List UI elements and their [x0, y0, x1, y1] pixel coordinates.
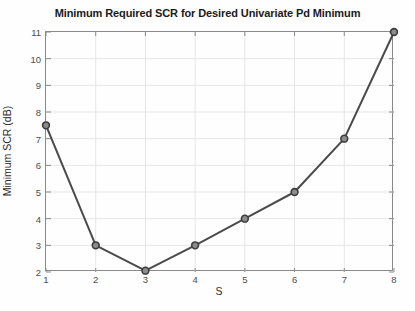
- y-tick-label: 9: [36, 80, 41, 91]
- y-tick-label: 8: [36, 107, 41, 118]
- y-axis-label: Minimum SCR (dB): [1, 106, 13, 196]
- data-point-marker: [43, 122, 50, 129]
- data-point-marker: [391, 29, 398, 36]
- y-tick-label: 5: [36, 187, 41, 198]
- x-axis-label: S: [215, 285, 222, 297]
- x-tick-label: 6: [292, 274, 297, 285]
- x-tick-label: 8: [391, 274, 396, 285]
- x-tick-label: 5: [242, 274, 247, 285]
- y-tick-label: 11: [31, 27, 41, 38]
- data-point-marker: [192, 242, 199, 249]
- x-tick-label: 7: [342, 274, 347, 285]
- x-tick-label: 2: [93, 274, 98, 285]
- data-point-marker: [241, 215, 248, 222]
- data-series-layer: [46, 32, 394, 272]
- x-tick-label: 1: [43, 274, 48, 285]
- data-point-marker: [341, 135, 348, 142]
- x-tick-label: 3: [143, 274, 148, 285]
- y-tick-label: 10: [30, 53, 41, 64]
- y-tick-label: 2: [36, 267, 41, 278]
- y-tick-label: 6: [36, 160, 41, 171]
- y-tick-label: 3: [36, 240, 41, 251]
- y-tick-label: 4: [36, 213, 41, 224]
- data-point-marker: [291, 189, 298, 196]
- chart-title: Minimum Required SCR for Desired Univari…: [0, 7, 415, 19]
- data-point-marker: [92, 242, 99, 249]
- y-tick-label: 7: [36, 133, 41, 144]
- figure-canvas: Minimum Required SCR for Desired Univari…: [0, 0, 415, 311]
- plot-area: 12345678234567891011: [45, 31, 393, 271]
- x-tick-label: 4: [192, 274, 197, 285]
